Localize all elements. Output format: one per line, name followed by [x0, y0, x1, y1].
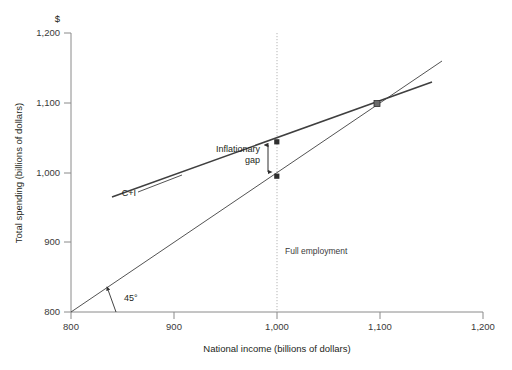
y-axis-title: Total spending (billions of dollars)	[13, 103, 24, 243]
marker-cplusi-at-full-employment	[274, 139, 279, 144]
inflationary-gap-label-line2: gap	[245, 155, 260, 165]
y-tick-label-1100: 1,100	[36, 97, 60, 108]
angle-45-leader-line	[107, 287, 116, 312]
angle-45-label: 45°	[124, 293, 138, 303]
x-tick-labels: 800 900 1,000 1,100 1,200	[63, 321, 495, 332]
marker-forty-five-at-full-employment	[274, 174, 279, 179]
x-tick-label-900: 900	[166, 321, 182, 332]
chart-svg: $ 1,200 1,100 1,000 900 800 800 900 1,00…	[0, 0, 512, 370]
y-tick-label-900: 900	[44, 236, 60, 247]
series-line-c-plus-i	[112, 82, 432, 197]
chart-figure: $ 1,200 1,100 1,000 900 800 800 900 1,00…	[0, 0, 512, 370]
c-plus-i-callout: C+I	[122, 175, 182, 198]
c-plus-i-label: C+I	[122, 188, 136, 198]
x-tick-label-1000: 1,000	[265, 321, 289, 332]
x-tick-label-800: 800	[63, 321, 79, 332]
x-axis-title: National income (billions of dollars)	[203, 343, 350, 354]
x-tick-label-1100: 1,100	[368, 321, 392, 332]
y-tick-label-1200: 1,200	[36, 27, 60, 38]
y-tick-label-1000: 1,000	[36, 167, 60, 178]
y-axis-currency-symbol: $	[55, 13, 61, 24]
inflationary-gap-annotation: Inflationary gap	[216, 144, 268, 172]
full-employment-label: Full employment	[285, 246, 348, 256]
x-tick-label-1200: 1,200	[471, 321, 495, 332]
marker-equilibrium-intersection	[374, 101, 380, 107]
y-tick-labels: $ 1,200 1,100 1,000 900 800	[36, 13, 60, 317]
c-plus-i-leader-line	[138, 175, 182, 192]
inflationary-gap-label-line1: Inflationary	[216, 144, 261, 154]
angle-45-annotation: 45°	[107, 287, 138, 312]
y-tick-label-800: 800	[44, 306, 60, 317]
